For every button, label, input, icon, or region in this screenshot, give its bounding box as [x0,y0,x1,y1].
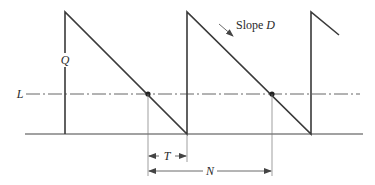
inventory-sawtooth-line [65,12,339,134]
slope-label: Slope D [236,18,275,32]
quantity-label: Q [61,53,70,67]
reorder-level-label: L [16,87,24,101]
cycle-label: N [205,164,215,178]
slope-leader-line [219,24,233,36]
lead-time-label: T [164,149,172,163]
inventory-sawtooth-diagram: T N Q L Slope D [0,0,375,185]
